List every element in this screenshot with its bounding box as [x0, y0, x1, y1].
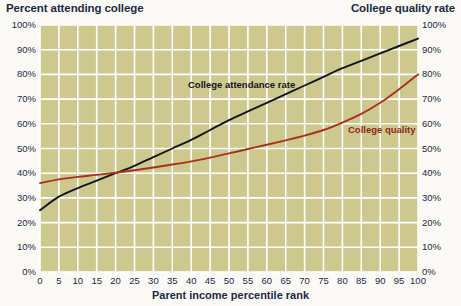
- chart-figure: Percent attending college College qualit…: [0, 0, 461, 306]
- y-right-tick: 80%: [422, 69, 441, 79]
- y-left-tick: 10%: [0, 242, 36, 252]
- y-right-tick: 10%: [422, 242, 441, 252]
- y-left-tick: 80%: [0, 69, 36, 79]
- y-left-tick: 60%: [0, 119, 36, 129]
- y-right-tick: 30%: [422, 193, 441, 203]
- y-right-tick: 20%: [422, 218, 441, 228]
- series-label-attendance: College attendance rate: [188, 79, 295, 90]
- y-right-tick: 50%: [422, 144, 441, 154]
- y-left-tick: 70%: [0, 94, 36, 104]
- right-axis-title: College quality rate: [351, 2, 455, 14]
- data-curves: [40, 25, 418, 272]
- y-left-tick: 40%: [0, 168, 36, 178]
- x-tick: 100: [406, 276, 430, 286]
- y-left-tick: 50%: [0, 144, 36, 154]
- left-axis-title: Percent attending college: [6, 2, 143, 14]
- plot-area: [40, 25, 418, 272]
- y-right-tick: 70%: [422, 94, 441, 104]
- y-right-tick: 40%: [422, 168, 441, 178]
- y-left-tick: 90%: [0, 45, 36, 55]
- y-right-tick: 60%: [422, 119, 441, 129]
- x-axis-title: Parent income percentile rank: [0, 289, 461, 301]
- y-right-tick: 100%: [422, 20, 446, 30]
- y-right-tick: 90%: [422, 45, 441, 55]
- series-label-quality: College quality: [348, 124, 416, 135]
- y-left-tick: 20%: [0, 218, 36, 228]
- y-left-tick: 100%: [0, 20, 36, 30]
- y-left-tick: 30%: [0, 193, 36, 203]
